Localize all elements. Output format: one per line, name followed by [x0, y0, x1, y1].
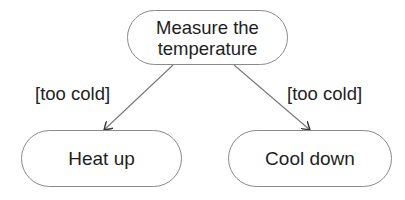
guard-label-left: [too cold]	[35, 83, 110, 105]
node-measure-temperature[interactable]: Measure the temperature	[127, 10, 288, 65]
node-label-line1: Measure the	[156, 17, 259, 38]
node-heat-up[interactable]: Heat up	[21, 130, 182, 187]
node-label-line2: temperature	[156, 38, 259, 59]
edge-measure-to-heat	[104, 65, 173, 130]
node-label: Heat up	[68, 148, 135, 170]
node-cool-down[interactable]: Cool down	[228, 130, 392, 187]
guard-label-right: [too cold]	[287, 83, 362, 105]
node-label: Cool down	[265, 148, 355, 170]
